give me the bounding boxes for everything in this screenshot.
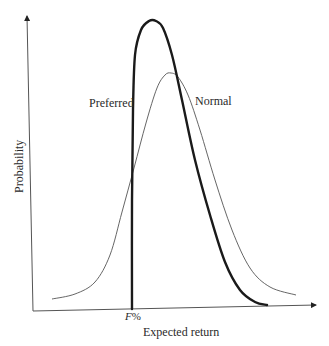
f-tick-suffix: % [132,310,141,322]
preferred-label: Preferred [89,96,134,110]
f-tick-label: F% [124,310,141,322]
normal-label: Normal [195,94,232,108]
y-axis [27,16,33,311]
y-axis-label: Probability [12,140,26,193]
chart: Preferred Normal F% Expected return Prob… [0,0,329,346]
chart-canvas: Preferred Normal F% Expected return Prob… [0,0,329,346]
x-axis [33,305,316,311]
preferred-curve [132,20,267,309]
x-axis-label: Expected return [143,325,219,339]
